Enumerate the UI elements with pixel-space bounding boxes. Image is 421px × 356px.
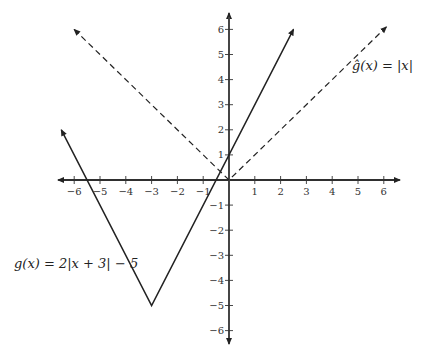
- y-tick-label: 1: [218, 149, 224, 160]
- y-tick-label: −2: [209, 225, 224, 236]
- y-tick-label: 3: [218, 99, 224, 110]
- axes: [58, 13, 400, 344]
- chart-canvas: −6−5−4−3−2−1123456−6−5−4−3−2−1123456 g(x…: [0, 0, 421, 356]
- y-tick-label: −6: [209, 325, 224, 336]
- y-tick-label: 4: [218, 74, 224, 85]
- y-tick-label: −1: [209, 200, 224, 211]
- x-tick-label: 4: [329, 186, 335, 197]
- y-tick-label: −5: [209, 300, 224, 311]
- y-tick-label: 2: [218, 124, 224, 135]
- x-tick-label: −6: [67, 186, 82, 197]
- y-tick-label: 6: [218, 24, 224, 35]
- x-tick-label: 2: [277, 186, 283, 197]
- x-tick-label: 3: [303, 186, 309, 197]
- y-tick-label: 5: [218, 49, 224, 60]
- x-tick-label: 5: [355, 186, 361, 197]
- g-function-label: g(x) = 2|x + 3| − 5: [14, 256, 138, 271]
- x-tick-label: 6: [381, 186, 387, 197]
- x-tick-label: −4: [118, 186, 133, 197]
- ghat-function-label: ĝ(x) = |x|: [352, 58, 413, 73]
- x-tick-label: −3: [144, 186, 159, 197]
- x-tick-label: −2: [170, 186, 185, 197]
- y-tick-label: −4: [209, 275, 224, 286]
- ghat-function-line: [74, 27, 386, 180]
- y-tick-label: −3: [209, 250, 224, 261]
- x-tick-label: 1: [252, 186, 258, 197]
